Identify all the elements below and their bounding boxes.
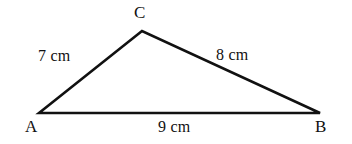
side-length-label-cb: 8 cm: [216, 47, 248, 63]
vertex-label-b: B: [315, 119, 327, 135]
vertex-label-a: A: [25, 119, 37, 135]
side-length-label-ac: 7 cm: [38, 48, 70, 64]
side-length-label-ab: 9 cm: [158, 119, 190, 135]
triangle-outline: [39, 31, 320, 113]
triangle-figure: C A B 7 cm 8 cm 9 cm: [0, 0, 352, 144]
vertex-label-c: C: [134, 5, 146, 21]
